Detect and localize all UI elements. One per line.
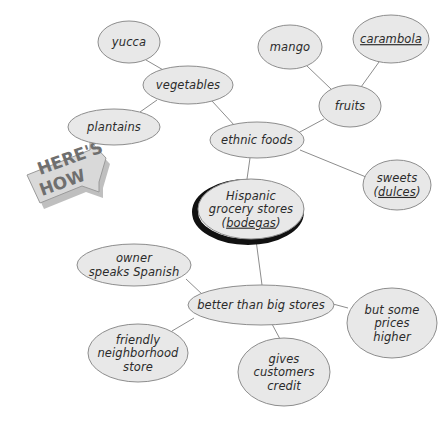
node-friendly-store[interactable]: friendlyneighborhoodstore [88,324,188,382]
node-vegetables[interactable]: vegetables [143,66,233,104]
node-plantains[interactable]: plantains [68,109,160,145]
node-label-line: gives [269,352,300,366]
node-label-line: ethnic foods [221,133,293,147]
node-ethnic-foods[interactable]: ethnic foods [210,122,304,158]
node-label-line: fruits [335,99,365,113]
node-gives-credit[interactable]: givescustomerscredit [238,338,330,406]
node-bodegas[interactable]: Hispanicgrocery stores(bodegas) [195,179,304,242]
node-label-line: plantains [86,120,141,134]
node-label-line: credit [267,379,301,393]
node-label-line: better than big stores [197,298,325,312]
node-label-line: higher [373,330,412,344]
node-owner-spanish[interactable]: ownerspeaks Spanish [77,244,191,286]
node-carambola[interactable]: carambola [353,15,429,63]
node-better-stores[interactable]: better than big stores [188,285,334,325]
node-label-line: but some [365,303,420,317]
node-sweets[interactable]: sweets(dulces) [363,160,431,210]
node-label-line: (dulces) [374,185,421,199]
node-label-line: yucca [111,35,146,49]
node-label-line: owner [116,251,153,265]
node-label-line: (bodegas) [222,216,281,230]
node-label-line: friendly [116,333,161,347]
node-prices-higher[interactable]: but somepriceshigher [347,288,437,358]
node-label-line: store [123,360,153,374]
node-label-line: carambola [360,32,422,46]
node-label-line: mango [270,40,310,54]
node-label-line: grocery stores [209,202,293,216]
node-label-line: vegetables [156,78,220,92]
node-label-line: prices [373,316,409,330]
node-label-line: customers [253,365,314,379]
node-label-line: Hispanic [226,189,276,203]
node-label-line: sweets [377,171,418,185]
node-yucca[interactable]: yucca [98,21,160,63]
node-mango[interactable]: mango [258,25,322,69]
node-label-line: speaks Spanish [89,265,180,279]
node-fruits[interactable]: fruits [319,85,381,127]
node-label-line: neighborhood [97,346,179,360]
concept-map-canvas: HERE'S HOW yuccavegetablesplantainsmango… [0,0,441,424]
